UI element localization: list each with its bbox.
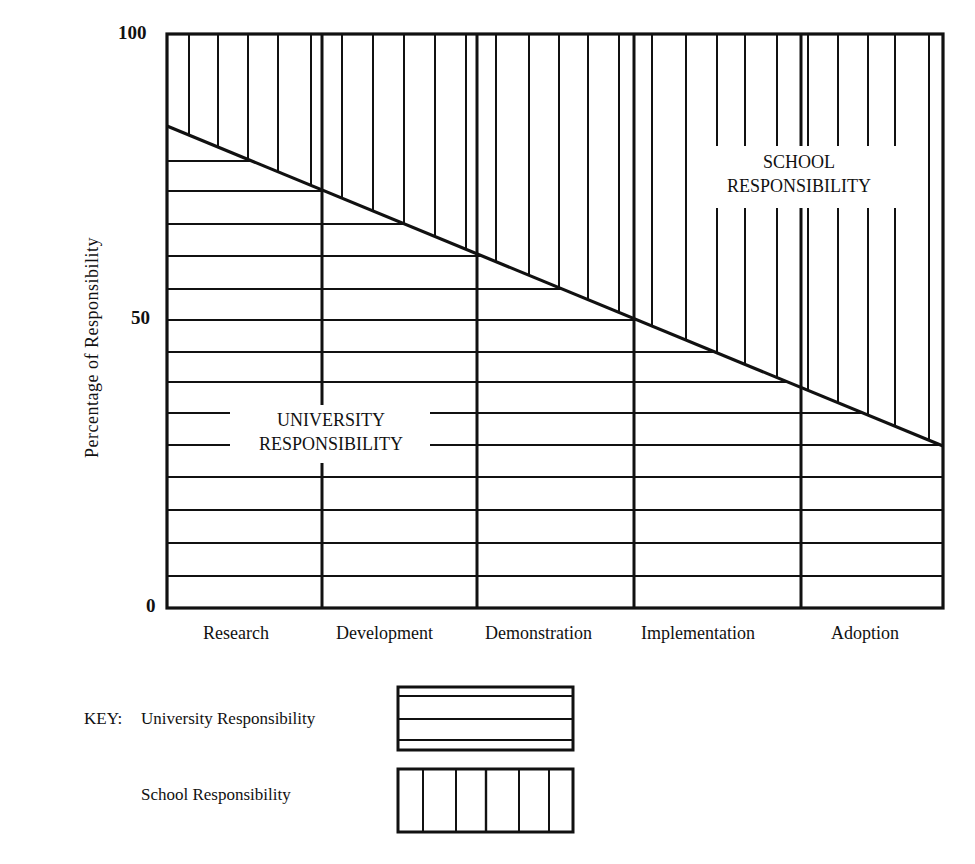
y-tick-0: 0 <box>146 595 156 617</box>
university-area <box>167 161 943 576</box>
university-label-line2: RESPONSIBILITY <box>238 432 424 456</box>
y-axis-label: Percentage of Responsibility <box>82 237 103 458</box>
key-label-school: School Responsibility <box>141 785 291 805</box>
y-tick-50: 50 <box>131 307 150 329</box>
x-tick-research: Research <box>203 623 269 644</box>
key-swatch-school <box>398 769 573 832</box>
key-label-university: University Responsibility <box>141 709 315 729</box>
x-tick-development: Development <box>336 623 433 644</box>
x-tick-adoption: Adoption <box>831 623 899 644</box>
key-swatch-university <box>398 687 573 750</box>
x-tick-demonstration: Demonstration <box>485 623 592 644</box>
university-label-line1: UNIVERSITY <box>238 408 424 432</box>
school-responsibility-label: SCHOOL RESPONSIBILITY <box>702 150 896 198</box>
responsibility-chart <box>0 0 975 864</box>
y-tick-100: 100 <box>118 22 147 44</box>
key-title: KEY: <box>84 709 122 729</box>
university-responsibility-label: UNIVERSITY RESPONSIBILITY <box>232 408 430 456</box>
x-tick-implementation: Implementation <box>641 623 755 644</box>
school-label-line2: RESPONSIBILITY <box>708 174 890 198</box>
school-label-line1: SCHOOL <box>708 150 890 174</box>
